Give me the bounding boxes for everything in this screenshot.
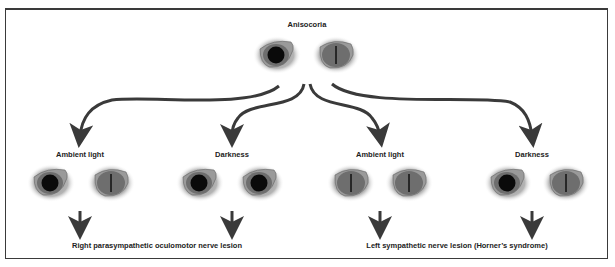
panel-3-left-eye-icon (327, 164, 375, 202)
diagram-title: Anisocoria (288, 20, 327, 29)
conclusion-right-parasympathetic: Right parasympathetic oculomotor nerve l… (72, 241, 242, 250)
panel-2-right-eye-icon (236, 164, 284, 202)
conclusion-left-sympathetic: Left sympathetic nerve lesion (Horner’s … (366, 241, 547, 250)
panel-1-label: Ambient light (56, 150, 104, 159)
diagram-canvas (0, 0, 615, 267)
panel-4-right-eye-icon (542, 164, 590, 202)
panel-1-left-eye-icon (27, 164, 75, 202)
top-left-eye-icon (253, 36, 301, 74)
panel-3-right-eye-icon (385, 164, 433, 202)
panel-4-label: Darkness (515, 150, 549, 159)
top-right-eye-icon (312, 36, 360, 74)
panel-2-label: Darkness (215, 150, 249, 159)
panel-4-left-eye-icon (484, 164, 532, 202)
panel-2-left-eye-icon (176, 164, 224, 202)
panel-1-right-eye-icon (87, 164, 135, 202)
panel-3-label: Ambient light (356, 150, 404, 159)
